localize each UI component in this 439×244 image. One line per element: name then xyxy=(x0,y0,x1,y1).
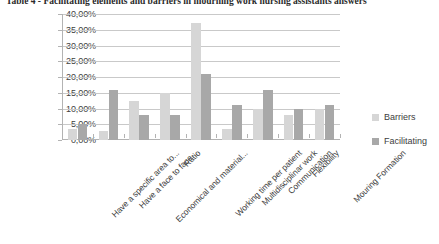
bar-barriers xyxy=(160,93,170,140)
legend-swatch-icon xyxy=(372,138,379,145)
x-axis-label: Ratio xyxy=(182,148,203,169)
legend-item: Barriers xyxy=(372,112,438,122)
plot-area xyxy=(62,14,340,140)
bar-chart: 0,00%5,00%10,00%15,00%20,00%25,00%30,00%… xyxy=(0,8,439,244)
bar-facilitating xyxy=(325,105,335,140)
y-axis-tick xyxy=(58,140,62,141)
x-axis-tick xyxy=(216,134,217,138)
x-axis-tick xyxy=(247,134,248,138)
bar-group xyxy=(93,14,124,140)
bar-group xyxy=(124,14,155,140)
chart-legend: BarriersFacilitating xyxy=(372,112,438,160)
bar-barriers xyxy=(191,23,201,140)
bar-group xyxy=(62,14,93,140)
x-axis-tick xyxy=(278,134,279,138)
bar-barriers xyxy=(222,129,232,140)
x-axis-tick xyxy=(155,134,156,138)
bar-barriers xyxy=(68,129,78,140)
bar-facilitating xyxy=(232,105,242,140)
bar-facilitating xyxy=(109,90,119,140)
x-axis-tick xyxy=(93,134,94,138)
bar-barriers xyxy=(315,109,325,141)
legend-item: Facilitating xyxy=(372,136,438,146)
x-axis-tick xyxy=(340,134,341,138)
chart-screenshot: Table 4 - Facilitating elements and barr… xyxy=(0,0,439,244)
bar-facilitating xyxy=(139,115,149,140)
bar-group xyxy=(186,14,217,140)
bar-barriers xyxy=(99,131,109,140)
bar-group xyxy=(155,14,186,140)
bar-barriers xyxy=(253,109,263,141)
bar-facilitating xyxy=(263,90,273,140)
legend-label: Facilitating xyxy=(384,136,427,146)
bar-barriers xyxy=(129,101,139,140)
bar-group xyxy=(216,14,247,140)
bar-group xyxy=(247,14,278,140)
bar-group xyxy=(278,14,309,140)
bar-series-container xyxy=(62,14,340,140)
x-axis-tick xyxy=(186,134,187,138)
legend-swatch-icon xyxy=(372,114,379,121)
x-axis-tick xyxy=(124,134,125,138)
x-axis-label: Have a specific area to... xyxy=(110,148,181,219)
x-axis-tick xyxy=(309,134,310,138)
bar-barriers xyxy=(284,115,294,140)
bar-group xyxy=(309,14,340,140)
bar-facilitating xyxy=(294,109,304,141)
x-axis-labels: Have a specific area to...Have a face to… xyxy=(62,146,362,244)
bar-facilitating xyxy=(170,115,180,140)
bar-facilitating xyxy=(78,124,88,140)
figure-caption: Table 4 - Facilitating elements and barr… xyxy=(6,0,436,8)
bar-facilitating xyxy=(201,74,211,140)
legend-label: Barriers xyxy=(384,112,416,122)
